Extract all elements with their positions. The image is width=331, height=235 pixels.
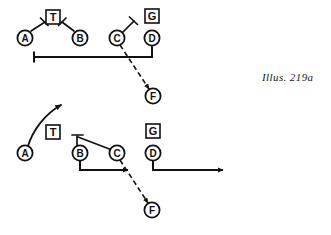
player-f-bottom: F <box>144 202 159 217</box>
player-label-a-bottom: A <box>21 148 28 159</box>
player-b-bottom: B <box>72 145 87 160</box>
route-pull-d-top <box>34 45 152 63</box>
block-stem-a-top <box>31 22 45 31</box>
figure-caption: Illus. 219a <box>262 71 313 83</box>
player-label-c-bottom: C <box>113 148 120 159</box>
player-c-bottom: C <box>109 145 124 160</box>
marker-t-top: T <box>46 10 60 24</box>
marker-label-g-top: G <box>148 10 157 22</box>
player-label-c-top: C <box>113 33 120 44</box>
marker-g-top: G <box>145 9 159 23</box>
marker-t-bottom: T <box>46 125 60 139</box>
marker-label-t-bottom: T <box>50 126 57 138</box>
player-label-d-top: D <box>148 33 155 44</box>
player-label-f-top: F <box>150 91 156 102</box>
panel-top-formation: T G A B C D <box>17 9 160 104</box>
route-block-b-top <box>59 18 75 31</box>
figure-page: T G A B C D <box>0 0 331 235</box>
handoff-c-to-f-bottom <box>120 160 148 203</box>
player-label-b-bottom: B <box>76 148 83 159</box>
block-stem-b-top <box>62 22 74 31</box>
marker-label-t-top: T <box>50 11 57 23</box>
player-d-top: D <box>144 30 159 45</box>
marker-label-g-bottom: G <box>149 125 158 137</box>
player-a-bottom: A <box>17 145 32 160</box>
player-a-top: A <box>17 30 32 45</box>
marker-g-bottom: G <box>146 124 160 138</box>
handoff-c-to-f-top <box>120 45 149 89</box>
player-f-top: F <box>145 88 160 103</box>
route-block-c-top <box>123 17 138 32</box>
player-label-a-top: A <box>21 33 28 44</box>
player-b-top: B <box>72 30 87 45</box>
player-d-bottom: D <box>145 145 160 160</box>
block-stem-c-top <box>123 21 134 32</box>
player-c-top: C <box>109 30 124 45</box>
player-label-b-top: B <box>76 33 83 44</box>
pull-path-d-top <box>34 45 152 57</box>
play-diagram: T G A B C D <box>0 0 331 235</box>
player-label-d-bottom: D <box>149 148 156 159</box>
panel-bottom-formation: T G A B C D <box>17 105 223 218</box>
route-run-d-bottom <box>153 160 223 170</box>
player-label-f-bottom: F <box>149 205 155 216</box>
